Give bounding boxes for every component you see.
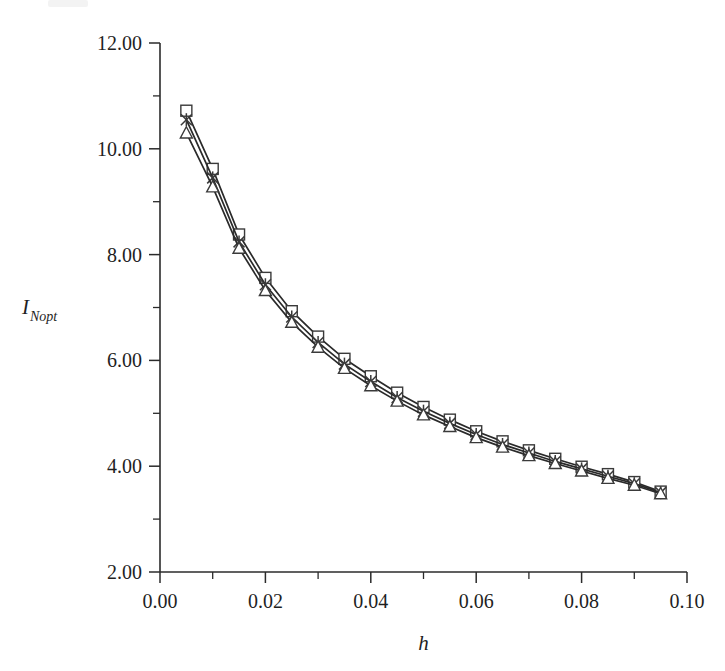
- x-tick-label: 0.00: [143, 590, 178, 612]
- y-tick-label: 8.00: [107, 244, 142, 266]
- x-tick-label: 0.04: [353, 590, 388, 612]
- x-tick-label: 0.02: [248, 590, 283, 612]
- series-line-triangle: [186, 133, 660, 494]
- line-chart: 0.000.020.040.060.080.102.004.006.008.00…: [0, 0, 725, 671]
- y-tick-label: 4.00: [107, 455, 142, 477]
- scan-artifact: [48, 0, 88, 7]
- x-tick-label: 0.10: [670, 590, 705, 612]
- axis-labels-group: 0.000.020.040.060.080.102.004.006.008.00…: [21, 32, 705, 655]
- y-axis-title-subscript: Nopt: [29, 309, 58, 324]
- y-axis-title: INopt: [21, 295, 58, 324]
- y-tick-label: 6.00: [107, 349, 142, 371]
- figure-container: 0.000.020.040.060.080.102.004.006.008.00…: [0, 0, 725, 671]
- series-square: [181, 105, 666, 497]
- y-tick-label: 10.00: [97, 138, 142, 160]
- x-tick-label: 0.06: [459, 590, 494, 612]
- series-line-x: [186, 120, 660, 493]
- x-axis-title: h: [418, 631, 429, 655]
- x-tick-label: 0.08: [564, 590, 599, 612]
- series-line-square: [186, 111, 660, 492]
- series-x: [181, 113, 666, 499]
- y-tick-label: 2.00: [107, 561, 142, 583]
- series-triangle: [180, 127, 666, 499]
- series-group: [180, 105, 666, 499]
- y-tick-label: 12.00: [97, 32, 142, 54]
- axes-group: [149, 43, 687, 583]
